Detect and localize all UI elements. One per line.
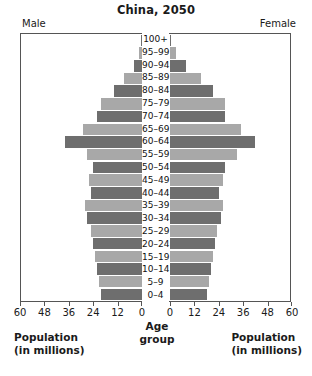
axis-tick bbox=[219, 302, 220, 306]
bar-male-70–74 bbox=[97, 111, 142, 123]
bar-female-5–9 bbox=[170, 276, 209, 288]
age-label-50–54: 50–54 bbox=[142, 161, 169, 174]
bar-male-50–54 bbox=[93, 162, 142, 174]
population-pyramid-chart: China, 2050 Male Female 100+95–9990–9485… bbox=[0, 0, 312, 376]
axis-tick-label-24: 24 bbox=[82, 307, 104, 318]
axis-tick bbox=[20, 302, 21, 306]
bar-female-50–54 bbox=[170, 162, 225, 174]
age-label-65–69: 65–69 bbox=[142, 123, 169, 136]
chart-title: China, 2050 bbox=[0, 3, 312, 17]
bar-female-70–74 bbox=[170, 111, 225, 123]
axis-tick bbox=[93, 302, 94, 306]
male-axis-title-line1: Population bbox=[14, 331, 78, 343]
female-legend-label: Female bbox=[260, 18, 296, 29]
bar-male-35–39 bbox=[85, 200, 142, 212]
age-label-20–24: 20–24 bbox=[142, 238, 169, 251]
age-group-axis: 100+95–9990–9485–8980–8475–7970–7465–696… bbox=[142, 33, 169, 302]
axis-tick-label-12: 12 bbox=[183, 307, 205, 318]
bar-female-40–44 bbox=[170, 187, 219, 199]
female-axis-tick-labels: 01224364860 bbox=[170, 307, 292, 320]
bar-female-55–59 bbox=[170, 149, 237, 161]
bar-female-95–99 bbox=[170, 47, 176, 59]
age-label-70–74: 70–74 bbox=[142, 110, 169, 123]
bar-female-100+ bbox=[170, 35, 171, 47]
female-axis-title: Population (in millions) bbox=[231, 331, 302, 356]
axis-tick bbox=[194, 302, 195, 306]
axis-tick-label-0: 0 bbox=[159, 307, 181, 318]
bar-female-35–39 bbox=[170, 200, 223, 212]
bar-male-55–59 bbox=[87, 149, 142, 161]
age-label-90–94: 90–94 bbox=[142, 59, 169, 72]
age-label-60–64: 60–64 bbox=[142, 135, 169, 148]
age-label-80–84: 80–84 bbox=[142, 84, 169, 97]
bar-female-65–69 bbox=[170, 124, 241, 136]
bar-female-30–34 bbox=[170, 212, 221, 224]
bar-female-90–94 bbox=[170, 60, 186, 72]
bar-male-10–14 bbox=[97, 263, 142, 275]
axis-tick bbox=[118, 302, 119, 306]
bar-male-75–79 bbox=[101, 98, 142, 110]
bar-female-25–29 bbox=[170, 225, 217, 237]
age-label-45–49: 45–49 bbox=[142, 174, 169, 187]
bar-female-60–64 bbox=[170, 136, 255, 148]
bar-female-45–49 bbox=[170, 174, 223, 186]
age-label-85–89: 85–89 bbox=[142, 71, 169, 84]
bar-female-0–4 bbox=[170, 289, 207, 301]
axis-tick-label-0: 0 bbox=[131, 307, 153, 318]
female-axis-title-line2: (in millions) bbox=[231, 344, 302, 357]
bar-female-75–79 bbox=[170, 98, 225, 110]
bar-male-80–84 bbox=[114, 85, 142, 97]
age-label-35–39: 35–39 bbox=[142, 199, 169, 212]
bar-male-90–94 bbox=[134, 60, 142, 72]
age-label-0–4: 0–4 bbox=[142, 289, 169, 302]
age-label-10–14: 10–14 bbox=[142, 263, 169, 276]
bar-male-85–89 bbox=[124, 73, 142, 85]
axis-tick-label-36: 36 bbox=[232, 307, 254, 318]
bar-male-20–24 bbox=[93, 238, 142, 250]
axis-tick bbox=[268, 302, 269, 306]
bar-male-30–34 bbox=[87, 212, 142, 224]
bar-male-15–19 bbox=[95, 251, 142, 263]
age-label-5–9: 5–9 bbox=[142, 276, 169, 289]
bar-male-25–29 bbox=[91, 225, 142, 237]
axis-tick-label-48: 48 bbox=[257, 307, 279, 318]
bar-male-40–44 bbox=[91, 187, 142, 199]
male-legend-label: Male bbox=[22, 18, 46, 29]
axis-tick-label-24: 24 bbox=[208, 307, 230, 318]
age-label-75–79: 75–79 bbox=[142, 97, 169, 110]
axis-tick bbox=[141, 302, 142, 306]
age-label-15–19: 15–19 bbox=[142, 251, 169, 264]
bar-female-20–24 bbox=[170, 238, 215, 250]
bar-male-45–49 bbox=[89, 174, 142, 186]
axis-tick-label-60: 60 bbox=[9, 307, 31, 318]
axis-tick bbox=[170, 302, 171, 306]
bar-male-5–9 bbox=[99, 276, 142, 288]
male-axis-title-line2: (in millions) bbox=[14, 344, 85, 357]
age-label-100+: 100+ bbox=[142, 33, 169, 46]
age-axis-title: Age group bbox=[137, 320, 177, 345]
axis-tick bbox=[44, 302, 45, 306]
axis-tick-label-12: 12 bbox=[107, 307, 129, 318]
bar-female-80–84 bbox=[170, 85, 213, 97]
bar-male-60–64 bbox=[65, 136, 142, 148]
age-axis-title-line1: Age bbox=[146, 320, 169, 332]
bar-male-0–4 bbox=[101, 289, 142, 301]
male-axis-tick-labels: 01224364860 bbox=[20, 307, 142, 320]
axis-tick bbox=[243, 302, 244, 306]
age-label-55–59: 55–59 bbox=[142, 148, 169, 161]
axis-tick-label-60: 60 bbox=[281, 307, 303, 318]
age-label-25–29: 25–29 bbox=[142, 225, 169, 238]
age-label-40–44: 40–44 bbox=[142, 187, 169, 200]
bar-female-10–14 bbox=[170, 263, 211, 275]
axis-tick-label-48: 48 bbox=[33, 307, 55, 318]
female-axis-title-line1: Population bbox=[231, 331, 295, 343]
age-axis-title-line2: group bbox=[137, 333, 177, 346]
axis-tick bbox=[69, 302, 70, 306]
bar-female-15–19 bbox=[170, 251, 213, 263]
axis-tick bbox=[291, 302, 292, 306]
axis-tick-label-36: 36 bbox=[58, 307, 80, 318]
age-label-30–34: 30–34 bbox=[142, 212, 169, 225]
male-axis-title: Population (in millions) bbox=[14, 331, 85, 356]
bar-female-85–89 bbox=[170, 73, 201, 85]
bar-male-65–69 bbox=[83, 124, 142, 136]
